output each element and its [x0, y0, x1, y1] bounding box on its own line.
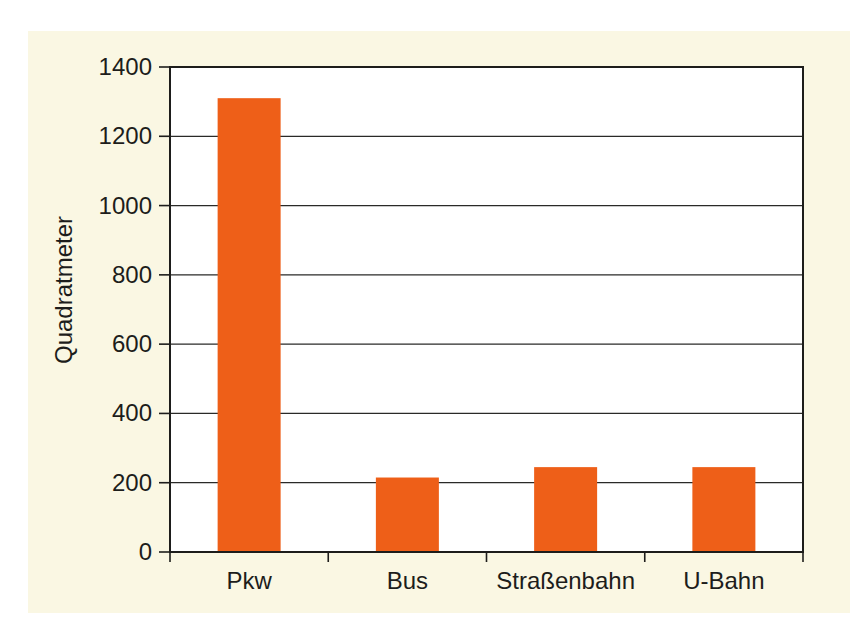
x-category-label: U-Bahn: [683, 567, 764, 594]
y-tick-label: 200: [112, 469, 152, 496]
x-category-label: Straßenbahn: [496, 567, 635, 594]
x-category-label: Pkw: [226, 567, 272, 594]
bar: [218, 98, 281, 552]
tick-labels-layer: 0200400600800100012001400: [99, 53, 152, 565]
bar: [692, 467, 755, 552]
y-tick-label: 1000: [99, 192, 152, 219]
y-tick-label: 600: [112, 330, 152, 357]
y-tick-label: 800: [112, 261, 152, 288]
y-tick-label: 400: [112, 399, 152, 426]
y-tick-label: 0: [139, 538, 152, 565]
category-labels-layer: PkwBusStraßenbahnU-Bahn: [226, 567, 764, 594]
y-tick-label: 1400: [99, 53, 152, 80]
bar: [534, 467, 597, 552]
bar: [376, 478, 439, 552]
bar-chart: 0200400600800100012001400 PkwBusStraßenb…: [0, 0, 864, 632]
y-axis-title: Quadratmeter: [50, 216, 77, 364]
chart-figure: 0200400600800100012001400 PkwBusStraßenb…: [0, 0, 864, 632]
y-tick-label: 1200: [99, 122, 152, 149]
x-category-label: Bus: [387, 567, 428, 594]
